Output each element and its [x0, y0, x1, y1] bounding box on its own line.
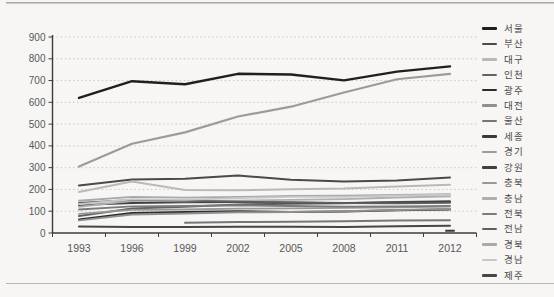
legend-item: 울산: [482, 115, 552, 128]
legend-label: 경기: [504, 147, 523, 157]
y-tick-label: 700: [29, 75, 46, 86]
legend-label: 광주: [504, 86, 523, 96]
legend-item: 충남: [482, 192, 552, 205]
legend-item: 인천: [482, 68, 552, 81]
x-tick-label: 2008: [332, 242, 356, 254]
legend-line-swatch: [482, 213, 497, 215]
y-tick-label: 200: [29, 184, 46, 195]
chart-legend: 서울부산대구인천광주대전울산세종경기강원충북충남전북전남경북경남제주: [482, 22, 552, 282]
legend-label: 대전: [504, 101, 523, 111]
legend-line-swatch: [482, 120, 497, 122]
x-tick-label: 1996: [120, 242, 144, 254]
legend-item: 강원: [482, 161, 552, 174]
series-line-제주: [79, 226, 450, 227]
line-chart: 0100200300400500600700800900199319961999…: [0, 8, 480, 283]
legend-line-swatch: [482, 43, 497, 45]
legend-item: 대구: [482, 53, 552, 66]
x-tick-label: 2005: [279, 242, 303, 254]
legend-item: 충북: [482, 176, 552, 189]
legend-line-swatch: [482, 58, 497, 60]
chart-figure: 0100200300400500600700800900199319961999…: [0, 8, 554, 283]
legend-label: 부산: [504, 39, 523, 49]
series-lines: [79, 66, 454, 230]
legend-label: 세종: [504, 132, 523, 142]
legend-label: 울산: [504, 116, 523, 126]
y-tick-label: 300: [29, 162, 46, 173]
y-tick-label: 600: [29, 97, 46, 108]
series-line-울산: [185, 220, 450, 223]
x-tick-label: 2002: [226, 242, 250, 254]
legend-item: 경기: [482, 146, 552, 159]
y-tick-label: 900: [29, 32, 46, 43]
legend-label: 대구: [504, 55, 523, 65]
legend-line-swatch: [482, 89, 497, 91]
legend-line-swatch: [482, 151, 497, 153]
legend-item: 대전: [482, 99, 552, 112]
x-tick-label: 1999: [173, 242, 197, 254]
legend-item: 부산: [482, 37, 552, 50]
y-tick-label: 800: [29, 53, 46, 64]
legend-line-swatch: [482, 243, 497, 245]
legend-label: 충남: [504, 194, 523, 204]
legend-label: 경남: [504, 255, 523, 265]
legend-line-swatch: [482, 104, 497, 106]
legend-label: 충북: [504, 178, 523, 188]
y-tick-label: 400: [29, 140, 46, 151]
legend-item: 경남: [482, 254, 552, 267]
series-line-부산: [79, 176, 450, 186]
legend-label: 인천: [504, 70, 523, 80]
page-bottom-rule: [6, 283, 554, 284]
legend-line-swatch: [482, 197, 497, 199]
legend-item: 경북: [482, 238, 552, 251]
x-tick-label: 2012: [438, 242, 462, 254]
legend-line-swatch: [482, 228, 497, 230]
legend-line-swatch: [482, 135, 497, 137]
y-tick-label: 0: [40, 228, 46, 239]
legend-item: 광주: [482, 84, 552, 97]
legend-label: 서울: [504, 24, 523, 34]
series-line-경기: [79, 74, 450, 167]
legend-item: 서울: [482, 22, 552, 35]
x-tick-label: 1993: [67, 242, 91, 254]
legend-item: 제주: [482, 269, 552, 282]
legend-label: 전남: [504, 224, 523, 234]
legend-item: 전남: [482, 223, 552, 236]
legend-label: 경북: [504, 240, 523, 250]
legend-label: 전북: [504, 209, 523, 219]
y-tick-label: 500: [29, 119, 46, 130]
legend-item: 세종: [482, 130, 552, 143]
legend-label: 강원: [504, 163, 523, 173]
legend-line-swatch: [482, 182, 497, 184]
series-line-대구: [79, 182, 450, 192]
y-tick-label: 100: [29, 206, 46, 217]
legend-line-swatch: [482, 274, 497, 276]
legend-line-swatch: [482, 27, 497, 29]
legend-line-swatch: [482, 74, 497, 76]
legend-line-swatch: [482, 259, 497, 261]
legend-line-swatch: [482, 166, 497, 168]
x-tick-label: 2011: [386, 242, 409, 254]
series-line-서울: [79, 66, 450, 98]
legend-item: 전북: [482, 207, 552, 220]
page-top-rule: [6, 2, 554, 4]
legend-label: 제주: [504, 271, 523, 281]
